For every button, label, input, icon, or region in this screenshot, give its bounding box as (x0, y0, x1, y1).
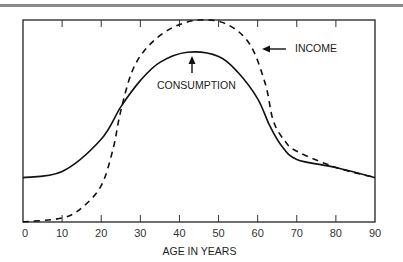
x-tick-label: 70 (282, 227, 312, 239)
x-axis-label: AGE IN YEARS (0, 245, 401, 257)
chart-plot (0, 0, 403, 262)
x-tick-label: 60 (243, 227, 273, 239)
x-tick-label: 20 (86, 227, 116, 239)
x-tick-label: 90 (360, 227, 390, 239)
income-label: INCOME (295, 42, 337, 54)
consumption-line (23, 52, 375, 178)
x-tick-label: 30 (125, 227, 155, 239)
x-tick-label: 10 (47, 227, 77, 239)
x-tick-label: 0 (10, 227, 40, 239)
x-tick-label: 50 (204, 227, 234, 239)
consumption-label: CONSUMPTION (157, 79, 236, 91)
income-arrow-icon (262, 46, 286, 53)
consumption-arrow-icon (189, 56, 196, 73)
x-tick-label: 40 (164, 227, 194, 239)
x-tick-label: 80 (321, 227, 351, 239)
